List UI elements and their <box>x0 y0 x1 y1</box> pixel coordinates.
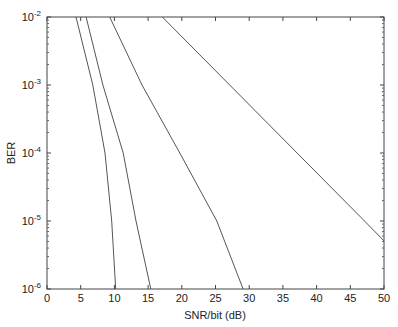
x-tick-label: 0 <box>44 292 50 304</box>
y-axis-ticks: 10-210-310-410-510-6 <box>22 9 384 295</box>
ber-chart: 05101520253035404550 10-210-310-410-510-… <box>0 0 398 327</box>
series-line-curve-4 <box>162 17 384 241</box>
y-tick-label: 10-4 <box>22 145 42 159</box>
y-axis-label: BER <box>5 142 17 165</box>
x-tick-label: 45 <box>344 292 356 304</box>
x-axis-ticks: 05101520253035404550 <box>44 17 390 304</box>
x-tick-label: 20 <box>176 292 188 304</box>
plot-lines <box>76 17 384 289</box>
series-line-curve-3 <box>110 17 243 289</box>
y-tick-label: 10-3 <box>22 77 42 91</box>
axes-frame <box>47 17 384 289</box>
y-tick-label: 10-5 <box>22 213 42 227</box>
y-tick-label: 10-2 <box>22 9 42 23</box>
y-tick-label: 10-6 <box>22 281 42 295</box>
x-tick-label: 25 <box>209 292 221 304</box>
x-tick-label: 5 <box>78 292 84 304</box>
x-tick-label: 50 <box>378 292 390 304</box>
x-axis-label: SNR/bit (dB) <box>184 309 246 321</box>
x-tick-label: 30 <box>243 292 255 304</box>
series-line-curve-2 <box>86 17 151 289</box>
x-tick-label: 15 <box>142 292 154 304</box>
x-tick-label: 40 <box>310 292 322 304</box>
x-tick-label: 10 <box>108 292 120 304</box>
x-tick-label: 35 <box>277 292 289 304</box>
